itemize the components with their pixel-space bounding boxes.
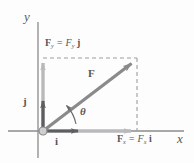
vector-components-figure: y x Fy = Fy j Fx = Fx i F i j θ: [0, 0, 194, 163]
fx-component-label: Fx = Fx i: [117, 134, 152, 145]
x-axis-label: x: [177, 132, 183, 145]
unit-vector-i-label: i: [55, 136, 58, 147]
y-axis-label: y: [24, 10, 30, 23]
origin-point: [39, 127, 47, 135]
fx-equals: = F: [126, 133, 144, 144]
figure-canvas: [0, 0, 194, 163]
angle-theta-label: θ: [80, 106, 86, 117]
fy-unit-vector: j: [74, 37, 80, 48]
unit-vector-j-label: j: [23, 96, 27, 107]
fx-unit-vector: i: [146, 133, 151, 144]
fy-component-label: Fy = Fy j: [45, 38, 80, 49]
force-vector-label: F: [88, 68, 95, 79]
fy-equals: = F: [54, 37, 72, 48]
